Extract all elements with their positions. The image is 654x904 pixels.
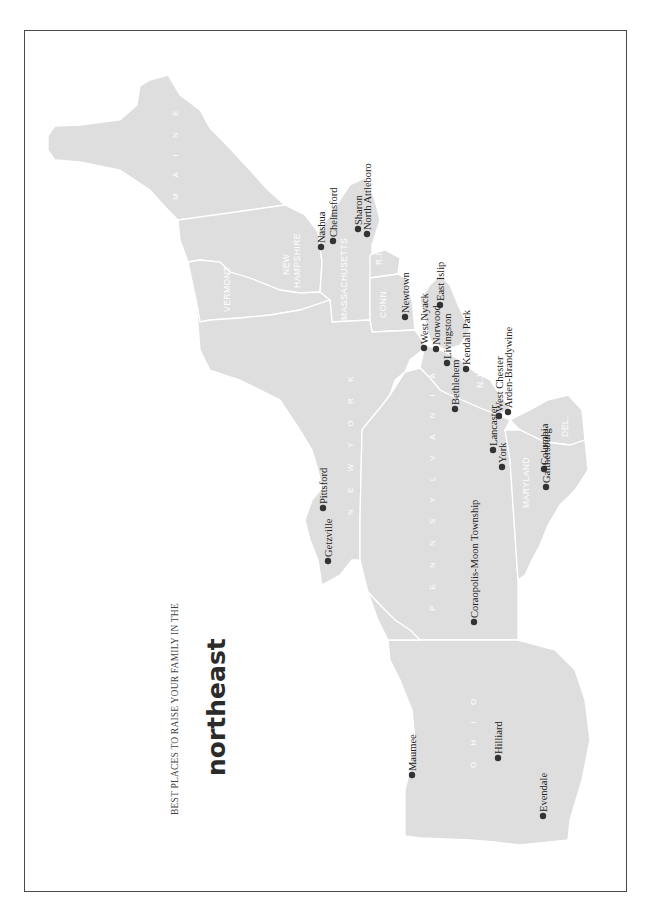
city-marker-north-attleboro[interactable]: North Attleboro [362,163,373,237]
city-label: East Islip [435,262,446,301]
city-label: Norwood [431,305,442,345]
city-marker-newtown[interactable]: Newtown [400,271,411,320]
city-label: Maumee [407,734,418,771]
city-label: Gaithersburg [541,428,552,483]
city-marker-east-islip[interactable]: East Islip [435,262,446,309]
city-dot[interactable] [433,346,439,352]
city-dot[interactable] [540,813,546,819]
state-label-new-jersey: N.J. [475,371,485,388]
state-label-delaware: DEL. [560,416,570,437]
city-label: North Attleboro [362,163,373,230]
city-dot[interactable] [471,619,477,625]
city-marker-getzville[interactable]: Getzville [323,518,334,564]
city-dot[interactable] [318,244,324,250]
city-label: Nashua [316,211,327,243]
city-label: Getzville [323,518,334,557]
city-marker-bethlehem[interactable]: Bethlehem [450,360,461,413]
city-label: Arden-Brandywine [503,327,514,408]
city-marker-chelmsford[interactable]: Chelmsford [328,187,339,245]
city-label: Kendall Park [461,309,472,365]
city-marker-kendall-park[interactable]: Kendall Park [461,309,472,372]
city-marker-coraopolis-moon-township[interactable]: Coraopolis-Moon Township [469,500,480,626]
city-dot[interactable] [320,505,326,511]
city-label: Newtown [400,271,411,313]
city-marker-gaithersburg[interactable]: Gaithersburg [541,428,552,491]
state-label-new-hampshire-1: NEW [281,254,291,275]
state-label-massachusetts: MASSACHUSETTS [339,238,349,320]
city-label: Evendale [538,773,549,812]
state-maine[interactable] [48,75,285,220]
city-label: West Nyack [419,292,430,344]
state-label-maine: M A I N E [171,104,180,200]
state-label-maryland: MARYLAND [521,457,531,508]
city-label: Coraopolis-Moon Township [469,500,480,618]
state-label-pennsylvania: P E N N S Y L V A N I A [428,366,437,611]
city-dot[interactable] [499,464,505,470]
city-marker-norwood[interactable]: Norwood [431,305,442,353]
city-dot[interactable] [409,772,415,778]
city-label: Chelmsford [328,187,339,237]
city-dot[interactable] [330,238,336,244]
city-dot[interactable] [495,755,501,761]
city-dot[interactable] [490,447,496,453]
city-dot[interactable] [364,231,370,237]
city-marker-maumee[interactable]: Maumee [407,734,418,778]
city-dot[interactable] [543,484,549,490]
city-label: Lancaster [488,405,499,446]
northeast-map: M A I N E NEW HAMPSHIRE VERMONT MASSACHU… [0,0,654,904]
city-dot[interactable] [463,366,469,372]
city-dot[interactable] [505,409,511,415]
city-marker-evendale[interactable]: Evendale [538,773,549,820]
state-label-new-york: N E W Y O R K [346,370,355,515]
city-dot[interactable] [325,558,331,564]
state-ohio[interactable] [388,640,590,845]
city-label: Livingston [442,313,453,359]
city-dot[interactable] [421,345,427,351]
state-label-connecticut: CONN. [378,288,388,318]
city-label: York [497,442,508,463]
state-label-new-hampshire-2: HAMPSHIRE [292,233,302,288]
city-label: Bethlehem [450,360,461,406]
city-marker-pittsford[interactable]: Pittsford [318,467,329,511]
city-marker-west-nyack[interactable]: West Nyack [419,292,430,351]
city-label: Pittsford [318,467,329,504]
city-dot[interactable] [402,314,408,320]
city-marker-livingston[interactable]: Livingston [442,313,453,366]
state-label-vermont: VERMONT [222,266,232,312]
city-label: Hilliard [493,721,504,754]
city-dot[interactable] [355,226,361,232]
city-dot[interactable] [452,406,458,412]
state-label-ohio: O H I O [469,692,478,768]
state-label-rhode-island: R.I. [374,250,384,265]
city-marker-arden-brandywine[interactable]: Arden-Brandywine [503,327,514,416]
